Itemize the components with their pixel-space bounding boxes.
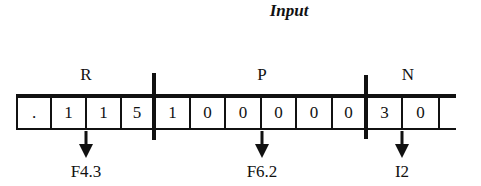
cell: 5 [122,98,152,128]
cell: 0 [226,98,260,128]
down-arrow-icon [252,131,272,159]
format-label-f6-2: F6.2 [232,162,292,182]
cell: 3 [368,98,401,128]
cell: 1 [52,98,85,128]
cell: 0 [262,98,295,128]
diagram-title: Input [0,1,481,21]
cell: 0 [191,98,224,128]
group-label-p: P [232,65,292,85]
cell: 1 [156,98,189,128]
cell: 1 [87,98,120,128]
cell [440,98,456,128]
down-arrow-icon [76,131,96,159]
format-label-f4-3: F4.3 [56,162,116,182]
cell: 0 [297,98,331,128]
group-label-r: R [56,65,116,85]
group-label-n: N [378,65,438,85]
format-label-i2: I2 [372,162,432,182]
down-arrow-icon [392,131,412,159]
cell: 0 [403,98,438,128]
cell: . [18,98,50,128]
strip-bottom-border [16,128,456,130]
cell: 0 [333,98,364,128]
